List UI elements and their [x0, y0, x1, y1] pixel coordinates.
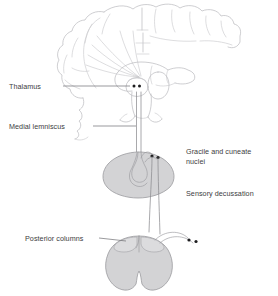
medial-lemniscus-tract [137, 92, 142, 158]
label-gracile-cuneate-nuclei-line2: nuclei [186, 157, 205, 166]
thalamus-structure [126, 78, 148, 97]
label-medial-lemniscus: Medial lemniscus [9, 122, 65, 131]
label-sensory-decussation: Sensory decussation [186, 189, 254, 198]
dorsal-root-fibers [155, 232, 198, 243]
label-gracile-cuneate-nuclei-line1: Gracile and cuneate [186, 147, 251, 156]
neuroanatomy-diagram: Thalamus Medial lemniscus Posterior colu… [0, 0, 278, 296]
corona-radiata-fibers [86, 31, 141, 77]
medulla-oblongata [103, 152, 174, 198]
diagram-canvas: Thalamus Medial lemniscus Posterior colu… [0, 0, 278, 296]
cerebrum-outline [57, 4, 240, 140]
diencephalon-outline [115, 62, 195, 99]
spinal-cord [106, 236, 173, 290]
label-thalamus: Thalamus [9, 82, 41, 91]
thalamus-marker-dots [133, 85, 142, 88]
label-posterior-columns: Posterior columns [25, 234, 84, 243]
